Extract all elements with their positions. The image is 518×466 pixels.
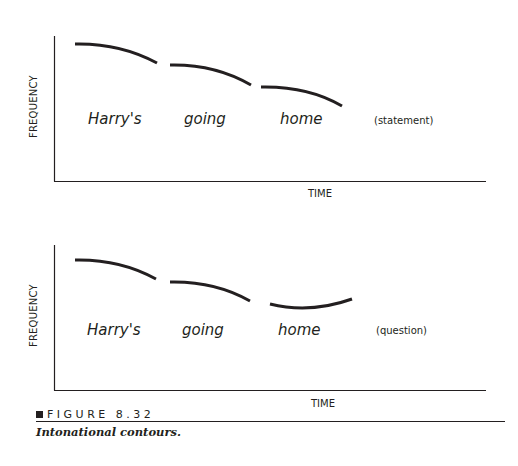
contour-going xyxy=(170,282,250,301)
statement-contours xyxy=(75,44,342,106)
figure-caption: Intonational contours. xyxy=(36,425,181,439)
type-label-question: (question) xyxy=(376,325,427,336)
question-contours xyxy=(75,260,352,308)
word-going: going xyxy=(184,110,226,128)
contour-home xyxy=(270,299,352,308)
x-axis-label: TIME xyxy=(311,398,335,409)
contour-harrys xyxy=(75,44,157,63)
type-label-statement: (statement) xyxy=(374,115,433,126)
square-bullet-icon xyxy=(36,411,43,418)
contour-harrys xyxy=(75,260,156,279)
caption-rule xyxy=(36,421,505,422)
word-going: going xyxy=(182,321,224,339)
word-harrys: Harry's xyxy=(88,110,142,128)
word-harrys: Harry's xyxy=(87,321,141,339)
figure-number-text: FIGURE 8.32 xyxy=(47,408,154,421)
y-axis-label: FREQUENCY xyxy=(28,75,39,138)
statement-axes xyxy=(54,36,486,182)
figure-canvas xyxy=(0,0,518,466)
contour-home xyxy=(261,87,342,106)
question-axes xyxy=(54,245,486,391)
word-home: home xyxy=(278,321,321,339)
x-axis-label: TIME xyxy=(308,188,332,199)
contour-going xyxy=(170,65,251,85)
word-home: home xyxy=(280,110,323,128)
y-axis-label: FREQUENCY xyxy=(28,284,39,347)
figure-number: FIGURE 8.32 xyxy=(36,408,154,421)
